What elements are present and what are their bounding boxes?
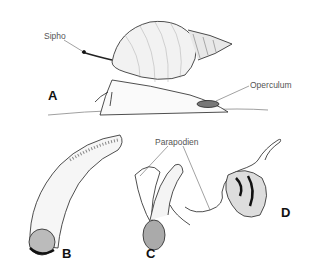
animal-drawing-b	[29, 135, 122, 255]
animal-drawing-d	[185, 139, 281, 217]
animal-drawing-c	[135, 164, 190, 250]
panel-label-b: B	[62, 246, 71, 261]
label-sipho: Sipho	[44, 31, 66, 41]
panel-label-a: A	[48, 88, 57, 103]
snail-drawing-a	[48, 21, 268, 115]
panel-label-d: D	[281, 205, 290, 220]
label-operculum: Operculum	[250, 80, 292, 90]
panel-label-c: C	[146, 246, 155, 261]
label-parapodien: Parapodien	[155, 137, 198, 147]
